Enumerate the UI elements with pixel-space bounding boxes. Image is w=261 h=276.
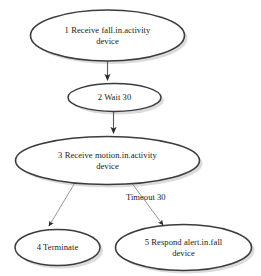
node-3-ellipse [16,137,200,185]
node-2-ellipse [68,84,161,112]
node-5-ellipse [116,225,252,271]
node-1-ellipse [31,10,185,61]
edge-3-to-5 [131,182,163,225]
diagram-canvas: 1 Receive fall.in.activity device 2 Wait… [0,0,261,276]
node-outlines [15,10,252,271]
flowchart-graphic [0,0,261,276]
edge-3-to-4 [49,181,76,226]
edge-label-timeout: Timeout 30 [126,192,166,202]
node-4-ellipse [15,230,100,266]
